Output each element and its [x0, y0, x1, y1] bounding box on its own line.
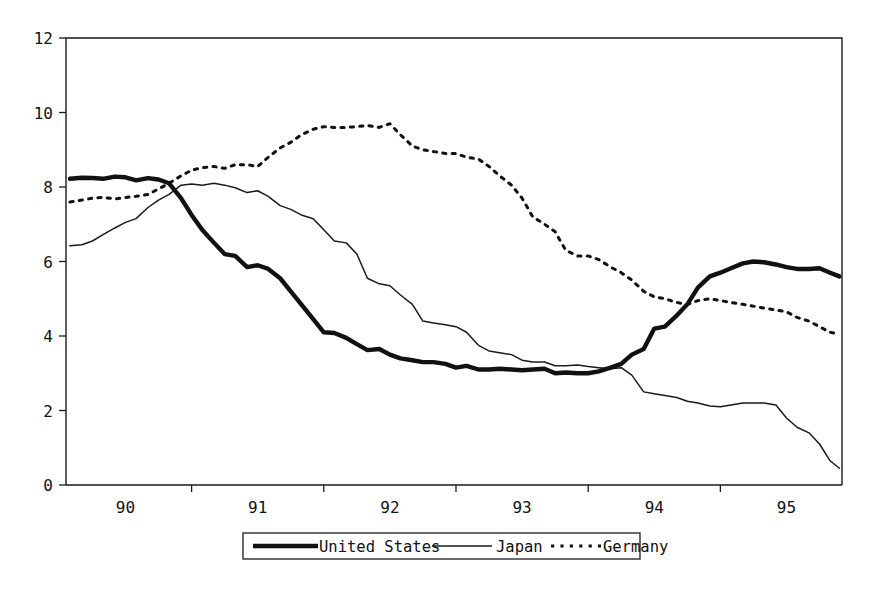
- y-tick-label: 2: [43, 402, 53, 421]
- series-line-united-states: [70, 177, 839, 374]
- y-tick-label: 10: [34, 104, 53, 123]
- series-line-japan: [70, 183, 839, 468]
- chart-svg: 024681012 909192939495 United States Jap…: [0, 0, 874, 595]
- series-line-germany: [70, 124, 839, 334]
- y-tick-label: 4: [43, 327, 53, 346]
- x-tick-label: 94: [645, 498, 664, 517]
- y-axis-tick-labels: 024681012: [34, 29, 53, 495]
- x-tick-label: 91: [248, 498, 267, 517]
- y-tick-label: 8: [43, 178, 53, 197]
- legend-label-united-states: United States: [319, 538, 440, 556]
- chart-legend: United States Japan Germany: [243, 533, 668, 559]
- x-axis-ticks: [192, 485, 721, 492]
- legend-label-germany: Germany: [603, 538, 668, 556]
- x-tick-label: 90: [116, 498, 135, 517]
- x-axis-tick-labels: 909192939495: [116, 498, 796, 517]
- x-tick-label: 95: [777, 498, 796, 517]
- x-tick-label: 93: [512, 498, 531, 517]
- y-tick-label: 6: [43, 253, 53, 272]
- legend-label-japan: Japan: [496, 538, 543, 556]
- plot-frame: [66, 38, 842, 485]
- line-chart: 024681012 909192939495 United States Jap…: [0, 0, 874, 595]
- y-axis-ticks: [59, 38, 66, 485]
- y-tick-label: 12: [34, 29, 53, 48]
- x-tick-label: 92: [380, 498, 399, 517]
- y-tick-label: 0: [43, 476, 53, 495]
